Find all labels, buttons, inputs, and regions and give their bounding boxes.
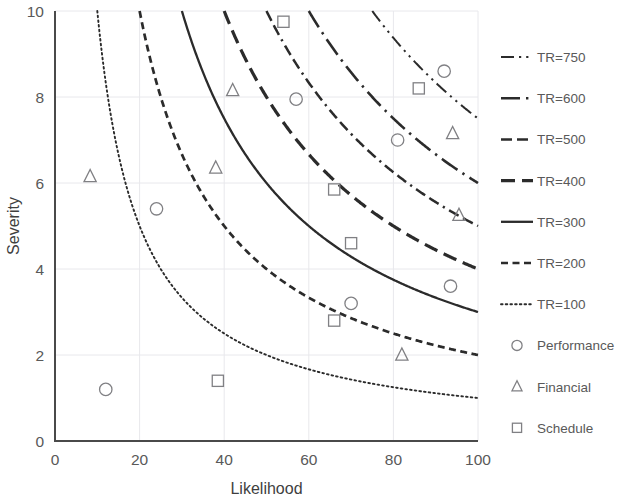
x-axis-title: Likelihood xyxy=(230,480,302,497)
legend-label: TR=100 xyxy=(537,297,585,312)
legend-item-tr-200[interactable]: TR=200 xyxy=(501,256,585,271)
series-schedule xyxy=(212,16,424,386)
series-financial xyxy=(84,83,465,360)
x-tick-label: 40 xyxy=(216,451,234,468)
iso-curve-500 xyxy=(267,11,479,226)
legend-label: TR=750 xyxy=(537,50,585,65)
legend-item-tr-750[interactable]: TR=750 xyxy=(501,50,585,65)
legend-label: TR=600 xyxy=(537,91,585,106)
marker-square xyxy=(346,238,357,249)
marker-circle xyxy=(100,383,112,395)
legend-item-financial[interactable]: Financial xyxy=(512,380,591,395)
marker-square xyxy=(212,375,223,386)
legend-label: TR=200 xyxy=(537,256,585,271)
legend-label: Financial xyxy=(537,380,591,395)
marker-square xyxy=(278,16,289,27)
axes-group xyxy=(54,11,478,442)
risk-matrix-chart: 0204060801000246810LikelihoodSeverityTR=… xyxy=(0,0,627,502)
x-tick-label: 100 xyxy=(465,451,491,468)
marker-triangle xyxy=(84,169,96,181)
y-tick-label: 8 xyxy=(35,89,44,106)
tick-labels-group: 0204060801000246810 xyxy=(27,3,492,468)
iso-curve-300 xyxy=(182,11,478,312)
y-tick-label: 10 xyxy=(27,3,45,20)
iso-curve-750 xyxy=(372,11,478,119)
marker-circle xyxy=(512,340,522,350)
legend-item-tr-300[interactable]: TR=300 xyxy=(501,215,585,230)
legend-label: Performance xyxy=(537,338,614,353)
legend-label: TR=400 xyxy=(537,174,585,189)
marker-triangle xyxy=(512,381,522,391)
x-tick-label: 60 xyxy=(300,451,318,468)
legend-item-tr-500[interactable]: TR=500 xyxy=(501,132,585,147)
marker-circle xyxy=(345,297,357,309)
y-axis-title: Severity xyxy=(5,197,22,255)
y-tick-label: 4 xyxy=(35,261,44,278)
legend-label: TR=300 xyxy=(537,215,585,230)
marker-square xyxy=(329,315,340,326)
gridlines-group xyxy=(55,11,478,441)
marker-circle xyxy=(150,203,162,215)
marker-circle xyxy=(290,93,302,105)
marker-triangle xyxy=(396,348,408,360)
legend-item-schedule[interactable]: Schedule xyxy=(512,421,593,436)
y-tick-label: 6 xyxy=(35,175,44,192)
marker-triangle xyxy=(227,83,239,95)
x-tick-label: 0 xyxy=(51,451,60,468)
legend-item-performance[interactable]: Performance xyxy=(512,338,614,353)
legend-label: Schedule xyxy=(537,421,593,436)
legend-item-tr-600[interactable]: TR=600 xyxy=(501,91,585,106)
x-tick-label: 20 xyxy=(131,451,149,468)
marker-triangle xyxy=(447,126,459,138)
y-tick-label: 0 xyxy=(35,433,44,450)
marker-circle xyxy=(444,280,456,292)
y-tick-label: 2 xyxy=(35,347,44,364)
chart-root: 0204060801000246810LikelihoodSeverityTR=… xyxy=(0,0,627,502)
marker-square xyxy=(413,83,424,94)
marker-square xyxy=(512,423,521,432)
legend-label: TR=500 xyxy=(537,132,585,147)
legend-item-tr-100[interactable]: TR=100 xyxy=(501,297,585,312)
legend-group: TR=750TR=600TR=500TR=400TR=300TR=200TR=1… xyxy=(501,50,614,436)
iso-curve-400 xyxy=(224,11,478,269)
marker-triangle xyxy=(210,161,222,173)
legend-item-tr-400[interactable]: TR=400 xyxy=(501,174,585,189)
marker-circle xyxy=(438,65,450,77)
x-tick-label: 80 xyxy=(385,451,403,468)
iso-risk-curves-group xyxy=(97,11,478,398)
